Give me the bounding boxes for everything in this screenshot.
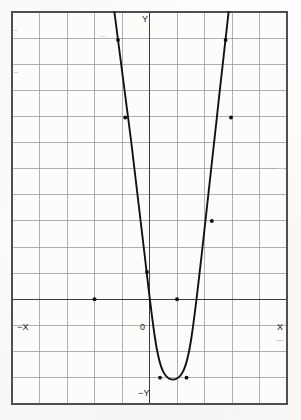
x-axis-positive-label: X bbox=[277, 323, 283, 332]
data-point-marker bbox=[158, 376, 162, 380]
y-axis-negative-label: −Y bbox=[138, 389, 150, 398]
data-point-marker bbox=[145, 270, 149, 274]
x-axis-negative-label: −X bbox=[17, 323, 29, 332]
data-point-marker bbox=[229, 116, 233, 120]
data-point-marker bbox=[116, 38, 120, 42]
data-point-marker bbox=[185, 376, 189, 380]
data-point-marker-x-intercept-right bbox=[175, 297, 179, 301]
data-point-marker-x-intercept-left bbox=[93, 297, 97, 301]
parabola-graph-figure: Y −Y X −X 0 bbox=[0, 0, 301, 420]
data-point-marker bbox=[224, 38, 228, 42]
data-point-marker bbox=[210, 219, 214, 223]
y-axis-positive-label: Y bbox=[142, 15, 148, 24]
data-point-marker bbox=[123, 116, 127, 120]
plot-canvas bbox=[0, 0, 301, 420]
origin-label: 0 bbox=[140, 323, 145, 332]
